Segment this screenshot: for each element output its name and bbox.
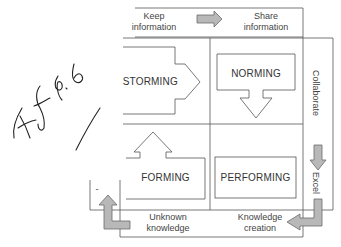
norming-arrow-shape <box>217 54 295 118</box>
norming-label: NORMING <box>217 68 295 79</box>
collaborate-label: Collaborate <box>311 48 321 138</box>
keep-information-label: Keep information <box>122 11 186 33</box>
forming-label: FORMING <box>126 172 205 183</box>
unknown-knowledge-label: Unknown knowledge <box>130 212 206 234</box>
forming-arrow-shape <box>126 132 205 199</box>
excel-label: Excel <box>311 168 321 198</box>
left-partial-label: - <box>92 184 102 195</box>
performing-label: PERFORMING <box>215 172 296 183</box>
diagram-canvas <box>0 0 341 247</box>
storming-label: STORMING <box>120 76 178 87</box>
arrow-down-icon <box>310 145 326 170</box>
handwritten-signature-icon <box>13 64 100 150</box>
knowledge-creation-label: Knowledge creation <box>222 212 298 234</box>
arrow-right-icon <box>197 11 222 27</box>
arrow-elbow-up-icon <box>99 195 130 229</box>
share-information-label: Share information <box>236 11 296 33</box>
